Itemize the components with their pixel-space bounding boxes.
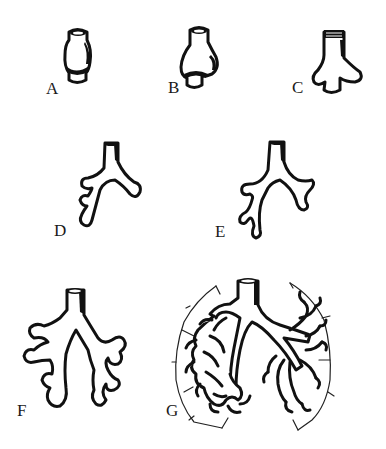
stage-label-d: D — [54, 222, 66, 239]
stage-b-figure — [181, 28, 217, 88]
stage-label-c: C — [292, 79, 303, 96]
stage-a-figure — [65, 30, 91, 83]
stage-label-a: A — [46, 80, 58, 97]
stage-label-b: B — [168, 79, 179, 96]
stage-c-figure — [313, 30, 361, 93]
stage-g-figure — [172, 278, 334, 430]
stage-label-g: G — [166, 402, 178, 419]
stage-e-figure — [240, 141, 314, 238]
stage-label-f: F — [17, 402, 26, 419]
stage-d-figure — [80, 142, 140, 226]
stage-label-e: E — [215, 223, 225, 240]
stage-f-figure — [24, 288, 125, 406]
